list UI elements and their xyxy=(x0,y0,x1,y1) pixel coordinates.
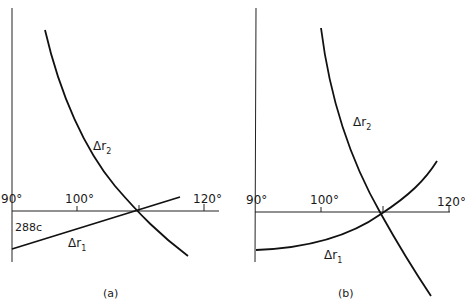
panel-a-tick-label-100: 100° xyxy=(65,192,94,206)
panel-b-label-dr2: Δr2 xyxy=(353,115,371,132)
panel-a-tick-label-90: 90° xyxy=(1,192,22,206)
panel-a-tick-label-120: 120° xyxy=(193,192,222,206)
panel-a-caption: (a) xyxy=(103,287,118,300)
panel-a-annotation: 288c xyxy=(15,221,42,234)
panel-a-curve-dr2 xyxy=(45,30,188,256)
panel-b-caption: (b) xyxy=(338,287,354,300)
panel-b-label-dr1: Δr1 xyxy=(324,248,342,265)
panel-b-tick-label-90: 90° xyxy=(246,193,267,207)
panel-b-y-axis xyxy=(255,8,256,262)
panel-b-tick-label-120: 120° xyxy=(437,195,465,209)
figure-canvas: 90° 100° 120° 288c Δr2 Δr1 (a) 90° 100° … xyxy=(0,0,465,307)
panel-a-label-dr1: Δr1 xyxy=(68,236,86,253)
panel-b-tick-label-100: 100° xyxy=(310,193,339,207)
panel-b: 90° 100° 120° Δr2 Δr1 (b) xyxy=(246,8,465,300)
panel-a-label-dr2: Δr2 xyxy=(93,139,111,156)
panel-a: 90° 100° 120° 288c Δr2 Δr1 (a) xyxy=(1,8,222,300)
panel-b-curve-dr1 xyxy=(256,161,437,250)
